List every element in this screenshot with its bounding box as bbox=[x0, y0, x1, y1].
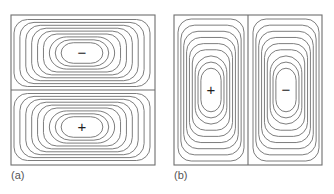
panel-b-label: (b) bbox=[174, 169, 187, 181]
contour-cell: + bbox=[178, 19, 244, 161]
plus-sign: + bbox=[207, 81, 216, 98]
minus-sign: − bbox=[78, 44, 87, 61]
contour-cell: + bbox=[14, 94, 150, 161]
contour-cell: − bbox=[14, 20, 150, 87]
plus-sign: + bbox=[78, 118, 87, 135]
panel-b: +− bbox=[174, 15, 322, 165]
contour-figure: −++− bbox=[0, 0, 334, 194]
panel-a: −+ bbox=[11, 15, 155, 165]
panel-a-label: (a) bbox=[11, 169, 24, 181]
contour-cell: − bbox=[253, 19, 319, 161]
minus-sign: − bbox=[282, 81, 291, 98]
